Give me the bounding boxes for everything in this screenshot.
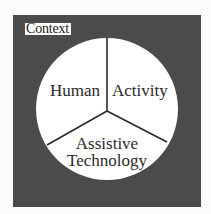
segment-assistive-technology-label: Assistive Technology xyxy=(62,135,152,169)
segment-at-line1: Assistive xyxy=(62,135,152,152)
segment-at-line2: Technology xyxy=(62,152,152,169)
segment-human-label: Human xyxy=(50,82,100,99)
context-label: Context xyxy=(25,23,71,35)
segment-activity-label: Activity xyxy=(112,82,168,99)
